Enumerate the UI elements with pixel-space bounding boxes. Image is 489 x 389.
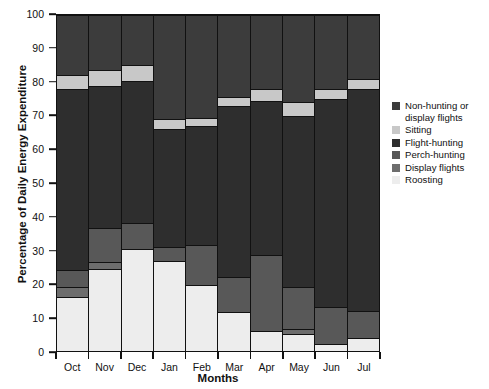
x-tick-mark (88, 352, 90, 359)
legend-item[interactable]: Sitting (392, 124, 488, 136)
chart-legend: Non-hunting or display flightsSittingFli… (392, 100, 488, 187)
bar-segment (154, 261, 185, 351)
legend-swatch-icon (392, 139, 400, 147)
legend-label: Flight-hunting (405, 137, 488, 149)
legend-label: Sitting (405, 124, 488, 136)
y-tick-mark (49, 115, 56, 117)
x-axis-ticks: OctNovDecJanFebMarAprMayJunJul (56, 352, 380, 372)
bar-segment (186, 118, 217, 126)
x-tick-mark (152, 352, 154, 359)
bar-segment (251, 331, 282, 351)
bar-column[interactable] (186, 15, 218, 351)
x-tick: Dec (121, 352, 153, 372)
y-tick-mark (49, 182, 56, 184)
x-tick-mark (347, 352, 349, 359)
x-tick-mark (379, 352, 381, 359)
legend-swatch-icon (392, 126, 400, 134)
x-tick-mark (120, 352, 122, 359)
y-tick-label: 10 (32, 312, 44, 324)
x-tick: Mar (218, 352, 250, 372)
stacked-bars (57, 15, 379, 351)
x-tick: Jun (315, 352, 347, 372)
legend-item[interactable]: Display flights (392, 162, 488, 174)
y-tick-label: 100 (26, 8, 44, 20)
y-tick-mark (49, 250, 56, 252)
bar-segment (154, 247, 185, 261)
bar-segment (122, 223, 153, 248)
bar-segment (186, 285, 217, 351)
bar-segment (218, 277, 249, 312)
bar-column[interactable] (348, 15, 379, 351)
bar-segment (315, 344, 346, 351)
x-axis-title: Months (56, 372, 380, 384)
bar-segment (348, 79, 379, 89)
bar-segment (89, 70, 120, 85)
legend-label: Roosting (405, 174, 488, 186)
legend-label: Non-hunting or display flights (405, 100, 488, 123)
y-tick-mark (49, 317, 56, 319)
bar-segment (348, 15, 379, 79)
bar-segment (89, 86, 120, 229)
legend-item[interactable]: Roosting (392, 174, 488, 186)
bar-segment (57, 270, 88, 287)
bar-segment (89, 15, 120, 70)
bar-column[interactable] (283, 15, 315, 351)
bar-column[interactable] (218, 15, 250, 351)
legend-item[interactable]: Non-hunting or display flights (392, 100, 488, 123)
y-tick-label: 0 (38, 346, 44, 358)
bar-segment (154, 15, 185, 119)
bar-segment (315, 15, 346, 89)
y-axis-ticks: 0102030405060708090100 (0, 0, 56, 389)
bar-segment (283, 329, 314, 334)
legend-item[interactable]: Flight-hunting (392, 137, 488, 149)
y-tick-label: 20 (32, 278, 44, 290)
bar-segment (251, 101, 282, 256)
bar-segment (57, 75, 88, 88)
bar-column[interactable] (57, 15, 89, 351)
y-tick-mark (49, 13, 56, 15)
x-tick-mark (250, 352, 252, 359)
bar-segment (315, 307, 346, 344)
bar-segment (315, 99, 346, 307)
bar-column[interactable] (122, 15, 154, 351)
y-tick-mark (49, 81, 56, 83)
y-tick-mark (49, 148, 56, 150)
x-tick-mark (55, 352, 57, 359)
x-tick-mark (217, 352, 219, 359)
bar-segment (122, 81, 153, 224)
x-tick-mark (314, 352, 316, 359)
bar-column[interactable] (315, 15, 347, 351)
bar-segment (89, 228, 120, 262)
plot-area (56, 14, 380, 352)
x-tick: Feb (186, 352, 218, 372)
x-tick: Jan (153, 352, 185, 372)
y-tick-label: 70 (32, 109, 44, 121)
x-tick-mark (282, 352, 284, 359)
x-tick-mark (185, 352, 187, 359)
legend-item[interactable]: Perch-hunting (392, 149, 488, 161)
bar-segment (283, 334, 314, 351)
bar-segment (57, 287, 88, 297)
bar-segment (186, 245, 217, 285)
bar-segment (122, 65, 153, 80)
x-tick: Apr (250, 352, 282, 372)
bar-segment (348, 89, 379, 311)
bar-column[interactable] (251, 15, 283, 351)
x-tick: May (283, 352, 315, 372)
y-tick-label: 60 (32, 143, 44, 155)
bar-segment (315, 89, 346, 99)
bar-segment (186, 15, 217, 117)
bar-segment (251, 15, 282, 89)
legend-swatch-icon (392, 151, 400, 159)
y-tick-mark (49, 47, 56, 49)
legend-label: Perch-hunting (405, 149, 488, 161)
bar-column[interactable] (154, 15, 186, 351)
bar-segment (89, 269, 120, 351)
bar-segment (251, 89, 282, 101)
y-tick-label: 30 (32, 245, 44, 257)
y-tick-label: 40 (32, 211, 44, 223)
bar-segment (89, 262, 120, 269)
x-tick: Jul (348, 352, 380, 372)
bar-segment (57, 297, 88, 351)
bar-column[interactable] (89, 15, 121, 351)
